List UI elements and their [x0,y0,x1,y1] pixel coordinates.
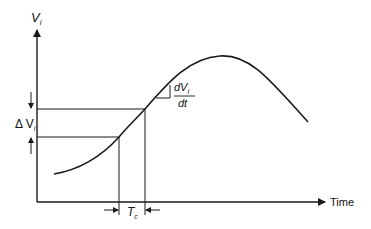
y-axis-label: Vi [31,10,42,27]
slope-triangle [156,85,170,98]
x-axis-label: Time [330,196,354,208]
tc-label: Tc [127,205,138,220]
slope-denominator: dt [178,97,188,109]
slope-numerator: dVi [174,81,189,95]
signal-slope-diagram: Vi Time Δ Vi Tc dVi dt [0,0,371,229]
signal-curve [54,56,308,174]
delta-v-label: Δ Vi [15,117,36,132]
